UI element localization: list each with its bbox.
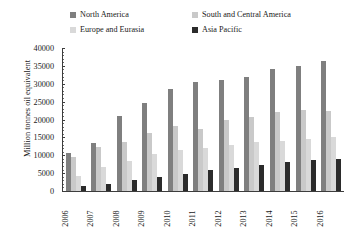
bar-group	[168, 48, 188, 191]
legend-swatch-north-america	[70, 12, 76, 18]
y-tick-label: 35000	[34, 61, 54, 70]
bar-group	[219, 48, 239, 191]
x-tick-label: 2013	[239, 210, 268, 226]
bar-group	[142, 48, 162, 191]
bar-group	[244, 48, 264, 191]
x-tick-label-slot: 2010	[166, 193, 188, 233]
x-tick-label-slot: 2007	[89, 193, 111, 233]
legend-label-europe-and-eurasia: Europe and Eurasia	[80, 26, 144, 34]
bar-group	[296, 48, 316, 191]
y-tick-label: 40000	[34, 44, 54, 53]
bar-group	[66, 48, 86, 191]
x-tick-label-slot: 2012	[217, 193, 239, 233]
x-tick-label: 2015	[290, 210, 319, 226]
bar	[81, 186, 86, 191]
bar-group	[117, 48, 137, 191]
bar	[208, 170, 213, 191]
bar-group	[270, 48, 290, 191]
legend-swatch-europe-and-eurasia	[70, 27, 76, 33]
x-tick-label: 2007	[86, 210, 115, 226]
x-tick-label-slot: 2013	[242, 193, 264, 233]
y-tick-label: 5000	[38, 169, 54, 178]
legend-entry-north-america: North America	[70, 11, 192, 19]
bar-group	[91, 48, 111, 191]
x-tick-label-slot: 2014	[268, 193, 290, 233]
bar	[285, 162, 290, 191]
legend-label-north-america: North America	[80, 11, 129, 19]
bar	[234, 168, 239, 191]
y-tick-label: 30000	[34, 79, 54, 88]
legend-entry-europe-and-eurasia: Europe and Eurasia	[70, 26, 192, 34]
y-tick-label: 25000	[34, 97, 54, 106]
y-tick-label: 20000	[34, 115, 54, 124]
bar	[336, 159, 341, 191]
x-tick-label: 2009	[137, 210, 166, 226]
legend-entry-asia-pacific: Asia Pacific	[192, 26, 348, 34]
legend-swatch-south-and-central-america	[192, 12, 198, 18]
y-tick-label: 15000	[34, 133, 54, 142]
bar-group	[321, 48, 341, 191]
y-tick-label: 0	[50, 187, 54, 196]
bar	[132, 180, 137, 191]
bar-groups	[63, 48, 344, 191]
legend-entry-south-and-central-america: South and Central America	[192, 11, 348, 19]
x-tick-label-slot: 2008	[115, 193, 137, 233]
x-tick-label-slot: 2006	[64, 193, 86, 233]
bar	[106, 184, 111, 192]
y-tick-label: 10000	[34, 151, 54, 160]
plot-area	[62, 48, 344, 192]
y-axis-tick-labels: 4000035000300002500020000150001000050000	[0, 43, 58, 196]
x-tick-label-slot: 2011	[191, 193, 213, 233]
bar	[259, 165, 264, 191]
legend-label-asia-pacific: Asia Pacific	[202, 26, 242, 34]
x-axis-tick-labels: 2006200720082009201020112012201320142015…	[62, 193, 343, 233]
chart-figure: North America South and Central America …	[0, 0, 351, 236]
bar	[157, 177, 162, 191]
x-tick-label-slot: 2016	[319, 193, 341, 233]
x-tick-label: 2016	[316, 210, 345, 226]
chart-legend: North America South and Central America …	[70, 8, 348, 38]
x-tick-label-slot: 2009	[140, 193, 162, 233]
bar-group	[193, 48, 213, 191]
x-tick-label: 2011	[188, 210, 217, 226]
x-tick-label-slot: 2015	[294, 193, 316, 233]
legend-swatch-asia-pacific	[192, 27, 198, 33]
bar	[183, 174, 188, 191]
bar	[311, 160, 316, 191]
legend-label-south-and-central-america: South and Central America	[202, 11, 291, 19]
